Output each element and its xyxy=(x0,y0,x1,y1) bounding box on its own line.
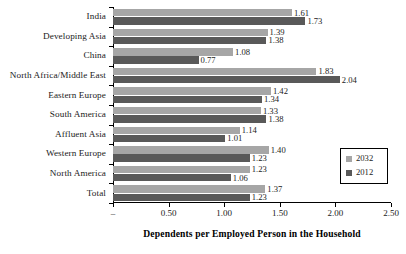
bar-value-label: 1.23 xyxy=(252,154,267,162)
x-axis-title: Dependents per Employed Person in the Ho… xyxy=(113,228,391,239)
bar-value-label: 2.04 xyxy=(342,76,357,84)
x-tick-label: 2.50 xyxy=(368,208,406,218)
x-tick-label: – xyxy=(90,208,136,218)
bar-2032 xyxy=(113,127,240,135)
bar-2032 xyxy=(113,166,250,174)
category-label: Developing Asia xyxy=(0,31,106,41)
x-tick-label: 2.00 xyxy=(312,208,358,218)
legend-label-2032: 2032 xyxy=(356,154,373,163)
category-label: Affluent Asia xyxy=(0,129,106,139)
category-label: North Africa/Middle East xyxy=(0,70,106,80)
legend-entry-2012: 2012 xyxy=(346,168,373,177)
bar-2032 xyxy=(113,107,261,115)
legend-label-2012: 2012 xyxy=(356,168,373,177)
bar-2012 xyxy=(113,135,225,143)
bar-value-label: 1.38 xyxy=(268,36,283,44)
bar-2012 xyxy=(113,115,266,123)
bar-value-label: 1.38 xyxy=(268,115,283,123)
bar-value-label: 1.14 xyxy=(242,126,257,134)
bar-2032 xyxy=(113,185,265,193)
bar-value-label: 1.01 xyxy=(227,134,242,142)
legend-entry-2032: 2032 xyxy=(346,154,373,163)
bar-value-label: 1.37 xyxy=(267,185,282,193)
x-tickmark xyxy=(224,203,225,207)
bar-value-label: 1.40 xyxy=(271,146,286,154)
bar-value-label: 1.23 xyxy=(252,193,267,201)
bar-value-label: 0.77 xyxy=(201,56,216,64)
category-label: Total xyxy=(0,188,106,198)
x-tickmark xyxy=(335,203,336,207)
bar-value-label: 1.83 xyxy=(318,67,333,75)
x-tickmark xyxy=(169,203,170,207)
bar-2012 xyxy=(113,96,262,104)
x-tick-label: 0.50 xyxy=(146,208,192,218)
x-tick-label: 1.00 xyxy=(201,208,247,218)
bar-2012 xyxy=(113,76,340,84)
category-label: North America xyxy=(0,168,106,178)
category-label: Western Europe xyxy=(0,148,106,158)
bar-2012 xyxy=(113,154,250,162)
bar-2012 xyxy=(113,17,305,25)
category-label: India xyxy=(0,11,106,21)
bar-2032 xyxy=(113,87,271,95)
legend-swatch-2032 xyxy=(346,156,352,162)
category-label: South America xyxy=(0,109,106,119)
bar-2032 xyxy=(113,146,269,154)
bar-2012 xyxy=(113,37,266,45)
bar-2032 xyxy=(113,68,316,76)
bar-value-label: 1.23 xyxy=(252,165,267,173)
bar-2032 xyxy=(113,29,268,37)
category-label: China xyxy=(0,50,106,60)
x-tick-label: 1.50 xyxy=(257,208,303,218)
legend-swatch-2012 xyxy=(346,170,352,176)
bar-2012 xyxy=(113,194,250,202)
bar-value-label: 1.06 xyxy=(233,174,248,182)
x-tickmark xyxy=(280,203,281,207)
bar-value-label: 1.08 xyxy=(235,48,250,56)
legend: 2032 2012 xyxy=(340,148,388,184)
bar-2012 xyxy=(113,56,199,64)
bar-2032 xyxy=(113,9,292,17)
x-tickmark xyxy=(113,203,114,207)
x-tickmark xyxy=(391,203,392,207)
bar-value-label: 1.34 xyxy=(264,95,279,103)
category-label: Eastern Europe xyxy=(0,90,106,100)
bar-chart: IndiaDeveloping AsiaChinaNorth Africa/Mi… xyxy=(0,0,406,254)
bar-2012 xyxy=(113,174,231,182)
bar-value-label: 1.73 xyxy=(307,17,322,25)
